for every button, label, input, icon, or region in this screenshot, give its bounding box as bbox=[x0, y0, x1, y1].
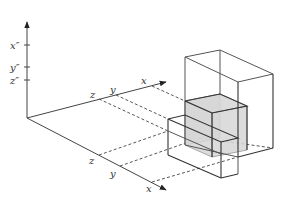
lower-label-z: z bbox=[88, 155, 95, 166]
lower-box-bottom-side bbox=[168, 155, 221, 178]
dash-upper-y bbox=[116, 95, 168, 119]
diagram-canvas: x″ y″ z″ z y x z y x bbox=[0, 0, 286, 202]
upper-label-y: y bbox=[109, 84, 116, 95]
projection-diagram: x″ y″ z″ z y x z y x bbox=[0, 0, 286, 202]
dash-lower-x bbox=[152, 157, 238, 182]
label-y-double-prime: y″ bbox=[9, 62, 20, 73]
outer-box-top bbox=[185, 50, 273, 82]
dash-upper-z bbox=[99, 99, 168, 131]
shaded-cube-front bbox=[212, 106, 247, 157]
upper-axis bbox=[27, 82, 166, 118]
lower-label-y: y bbox=[109, 168, 116, 179]
upper-label-x: x bbox=[141, 75, 147, 86]
lower-box-bottom-front bbox=[221, 174, 238, 178]
lower-axis bbox=[27, 118, 166, 190]
label-z-double-prime: z″ bbox=[9, 75, 19, 86]
label-x-double-prime: x″ bbox=[10, 40, 20, 51]
dash-upper-x bbox=[152, 86, 185, 101]
upper-label-z: z bbox=[89, 89, 96, 100]
dash-lower-z bbox=[99, 131, 168, 155]
lower-label-x: x bbox=[146, 183, 152, 194]
